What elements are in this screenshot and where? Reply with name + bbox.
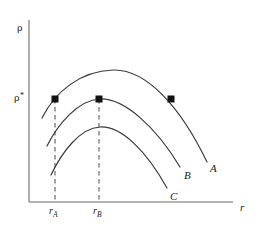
curve-a-label: A <box>210 163 217 174</box>
critical-level-superscript: * <box>20 91 24 100</box>
tick-label-r-a: rA <box>49 206 58 216</box>
point-b-peak <box>96 96 103 103</box>
figure-canvas: ρ r ρ* rA rB A B C <box>0 0 266 227</box>
x-axis-label: r <box>240 202 244 213</box>
point-a-right <box>168 96 175 103</box>
curve-c <box>51 127 167 188</box>
point-a-left <box>52 96 59 103</box>
critical-level-base: ρ <box>14 91 20 103</box>
tick-label-r-b-sub: B <box>97 210 102 219</box>
curve-b-label: B <box>184 170 191 181</box>
tick-label-r-a-sub: A <box>53 210 58 219</box>
critical-level-label: ρ* <box>14 92 24 103</box>
curve-c-label: C <box>170 191 177 202</box>
tick-label-r-b: rB <box>93 206 102 216</box>
diagram-svg <box>0 0 266 227</box>
y-axis-label: ρ <box>17 22 23 33</box>
curve-b <box>47 99 180 167</box>
